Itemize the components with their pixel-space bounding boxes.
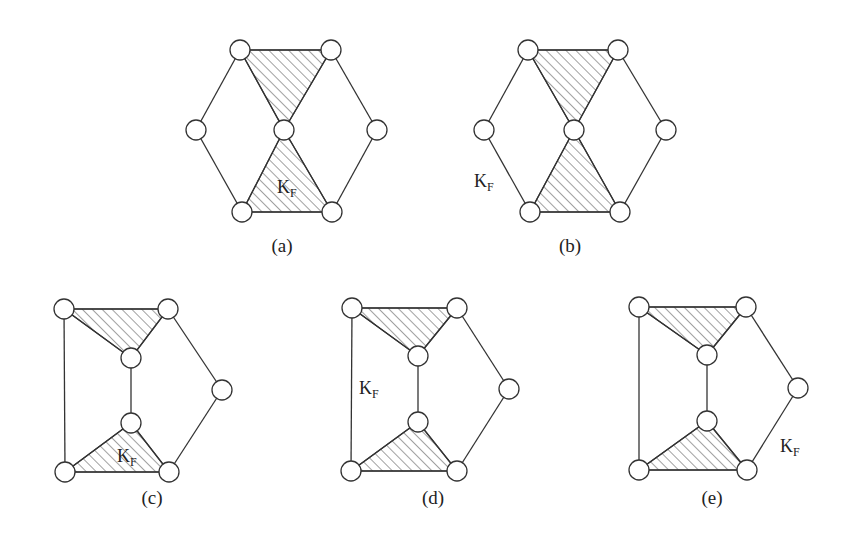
graph-node [230,40,250,60]
graph-edge [196,50,240,130]
graph-node [629,297,649,317]
graph-node [54,299,74,319]
panel-caption: (b) [559,235,581,257]
panels-group: KF(a)KF(b)KF(c)KF(d)KF(e) [54,40,808,509]
graph-edge [457,308,509,389]
kf-subscript: F [372,387,379,401]
graph-edge [169,390,222,472]
graph-edge [332,130,377,212]
graph-node [408,412,428,432]
graph-edge [620,130,666,212]
shaded-triangle [242,130,332,212]
shaded-triangle [639,421,747,470]
graph-node [186,120,206,140]
shaded-triangle [530,130,620,212]
graph-node [121,413,141,433]
graph-edge [457,389,509,471]
graph-node [736,297,756,317]
graph-node [610,202,630,222]
graph-node [367,120,387,140]
graph-node [158,299,178,319]
graph-node [608,40,628,60]
graph-edge [746,307,798,388]
graph-node [212,380,232,400]
panel-caption: (c) [141,487,162,509]
graph-node [564,120,584,140]
shaded-triangle [639,307,746,355]
panel-a: KF(a) [186,40,387,257]
graph-edge [618,50,666,130]
graph-node [656,120,676,140]
kf-label: KF [474,171,494,194]
panel-caption: (d) [422,487,444,509]
panel-c: KF(c) [54,299,232,509]
shaded-triangle [352,308,457,356]
kf-subscript: F [130,455,137,469]
panel-caption: (e) [701,487,722,509]
graph-edge [484,130,530,212]
graph-node [447,461,467,481]
shaded-triangle [240,50,331,130]
graph-node [341,461,361,481]
graph-node [518,40,538,60]
graph-node [121,348,141,368]
kf-subscript: F [793,445,800,459]
graph-node [55,462,75,482]
graph-node [342,298,362,318]
graph-node [274,120,294,140]
graph-node [697,345,717,365]
graph-node [737,460,757,480]
graph-edge [64,309,65,472]
shaded-triangle [528,50,618,130]
graph-node [629,460,649,480]
kf-subscript: F [487,180,494,194]
panel-b: KF(b) [474,40,676,257]
kf-subscript: F [290,186,297,200]
graph-node [159,462,179,482]
graph-edge [196,130,242,212]
graph-node [408,346,428,366]
graph-node [474,120,494,140]
panel-e: KF(e) [629,297,808,509]
figure-canvas: KF(a)KF(b)KF(c)KF(d)KF(e) [0,0,845,555]
graph-node [499,379,519,399]
shaded-triangle [64,309,168,358]
graph-node [520,202,540,222]
graph-node [697,411,717,431]
graph-edge [747,388,798,470]
graph-node [447,298,467,318]
kf-label: KF [359,378,379,401]
panel-d: KF(d) [341,298,519,509]
graph-node [322,202,342,222]
kf-label: KF [780,436,800,459]
graph-edge [331,50,377,130]
graph-edge [168,309,222,390]
graph-node [232,202,252,222]
graph-edge [484,50,528,130]
graph-node [788,378,808,398]
shaded-triangle [351,422,457,471]
graph-node [321,40,341,60]
graph-edge [351,308,352,471]
panel-caption: (a) [271,235,292,257]
